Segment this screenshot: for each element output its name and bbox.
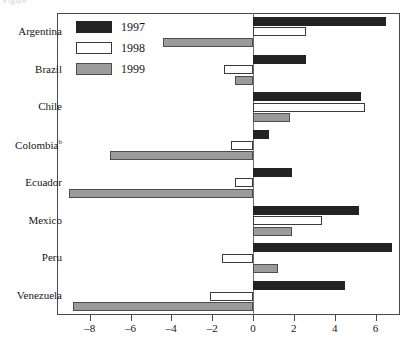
bar-brazil-1998	[224, 65, 253, 74]
bar-venezuela-1999	[73, 302, 253, 311]
category-label: Colombiab	[15, 139, 62, 151]
legend: 1997 1998 1999	[76, 18, 145, 81]
legend-item[interactable]: 1998	[76, 39, 145, 56]
bar-peru-1997	[253, 243, 392, 252]
bar-colombia-1999	[110, 151, 253, 160]
bar-ecuador-1999	[69, 189, 253, 198]
category-label: Brazil	[35, 64, 62, 75]
x-tick-label: –2	[207, 322, 218, 334]
bar-venezuela-1998	[210, 292, 253, 301]
bar-argentina-1997	[253, 17, 386, 26]
x-tick-label: –6	[125, 322, 136, 334]
bar-venezuela-1997	[253, 281, 345, 290]
bar-peru-1998	[222, 254, 253, 263]
legend-label-1997: 1997	[121, 21, 145, 33]
x-tick-label: 0	[250, 322, 256, 334]
legend-label-1999: 1999	[121, 63, 145, 75]
category-label: Venezuela	[17, 290, 62, 301]
bar-ecuador-1997	[253, 168, 292, 177]
x-tick	[335, 315, 336, 321]
chart-canvas: Figure ArgentinaBrazilChileColombiabEcua…	[0, 0, 409, 338]
category-label: Mexico	[28, 215, 62, 226]
x-tick-label: 2	[291, 322, 297, 334]
x-tick-label: 6	[373, 322, 379, 334]
bar-mexico-1999	[253, 227, 292, 236]
x-tick-label: –8	[84, 322, 95, 334]
legend-swatch-1997	[76, 21, 112, 33]
bar-chile-1997	[253, 92, 361, 101]
top-caption: Figure	[3, 0, 27, 5]
x-tick-label: –4	[166, 322, 177, 334]
category-label: Ecuador	[25, 177, 62, 188]
x-tick	[171, 315, 172, 321]
legend-item[interactable]: 1999	[76, 60, 145, 77]
x-tick	[131, 315, 132, 321]
bar-colombia-1997	[253, 130, 269, 139]
x-tick	[253, 315, 254, 321]
bar-mexico-1997	[253, 206, 359, 215]
bar-ecuador-1998	[235, 178, 253, 187]
legend-swatch-1999	[76, 63, 112, 75]
bar-chile-1998	[253, 103, 365, 112]
category-label: Argentina	[18, 26, 62, 37]
bar-argentina-1998	[253, 27, 306, 36]
x-tick	[376, 315, 377, 321]
footnote-marker: b	[59, 138, 63, 146]
bar-brazil-1999	[235, 76, 253, 85]
category-label: Peru	[42, 252, 62, 263]
x-tick	[294, 315, 295, 321]
bar-mexico-1998	[253, 216, 322, 225]
bar-chile-1999	[253, 113, 290, 122]
legend-item[interactable]: 1997	[76, 18, 145, 35]
legend-swatch-1998	[76, 42, 112, 54]
bar-argentina-1999	[163, 38, 253, 47]
x-tick	[90, 315, 91, 321]
bar-colombia-1998	[231, 141, 253, 150]
x-tick	[212, 315, 213, 321]
bar-brazil-1997	[253, 55, 306, 64]
x-tick-label: 4	[332, 322, 338, 334]
bar-peru-1999	[253, 264, 278, 273]
category-label: Chile	[38, 101, 62, 112]
legend-label-1998: 1998	[121, 42, 145, 54]
